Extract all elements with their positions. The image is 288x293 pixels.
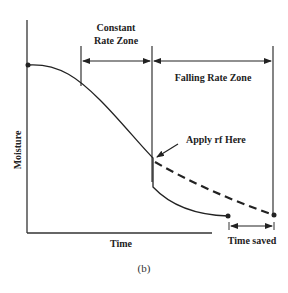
drying-curve-diagram: Constant Rate Zone Falling Rate Zone App… (0, 0, 288, 293)
y-axis-label: Moisture (12, 130, 23, 169)
apply-rf-pointer-arrow (157, 144, 178, 157)
falling-zone-label: Falling Rate Zone (175, 72, 252, 83)
apply-rf-label: Apply rf Here (186, 134, 246, 145)
dashed-rf-curve (155, 162, 274, 215)
constant-zone-label-line1: Constant (97, 22, 137, 33)
figure-caption: (b) (138, 262, 151, 275)
x-axis-label: Time (110, 238, 133, 249)
constant-zone-label-line2: Rate Zone (94, 35, 139, 46)
solid-curve-end-point (226, 214, 231, 219)
time-saved-label: Time saved (228, 235, 277, 246)
dashed-curve-end-point (272, 213, 277, 218)
